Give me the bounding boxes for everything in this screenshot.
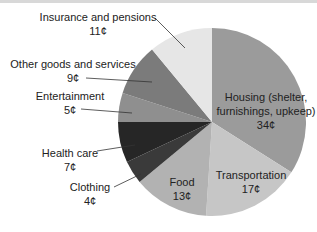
label-name: Food <box>169 176 194 188</box>
label-food: Food 13¢ <box>162 175 202 203</box>
label-value: 5¢ <box>30 103 110 117</box>
label-name: Insurance and pensions <box>40 11 157 23</box>
label-insurance: Insurance and pensions 11¢ <box>38 10 158 38</box>
label-name: Health care <box>42 147 98 159</box>
label-value: 11¢ <box>38 24 158 38</box>
label-name-line1: Housing (shelter, <box>216 90 316 104</box>
leader-line-clothing <box>114 174 141 187</box>
label-value: 34¢ <box>216 118 316 132</box>
label-value: 13¢ <box>162 189 202 203</box>
label-name: Entertainment <box>36 90 104 102</box>
label-value: 9¢ <box>8 71 138 85</box>
label-value: 7¢ <box>38 160 102 174</box>
label-health: Health care 7¢ <box>38 146 102 174</box>
label-name-line2: furnishings, upkeep) <box>216 104 316 118</box>
label-other: Other goods and services 9¢ <box>8 57 138 85</box>
label-name: Clothing <box>70 181 110 193</box>
label-housing: Housing (shelter, furnishings, upkeep) 3… <box>216 90 316 132</box>
label-value: 4¢ <box>65 194 115 208</box>
label-value: 17¢ <box>208 182 294 196</box>
label-clothing: Clothing 4¢ <box>65 180 115 208</box>
label-name: Transportation <box>216 169 287 181</box>
label-name: Other goods and services <box>10 58 135 70</box>
label-entertainment: Entertainment 5¢ <box>30 89 110 117</box>
label-transportation: Transportation 17¢ <box>208 168 294 196</box>
